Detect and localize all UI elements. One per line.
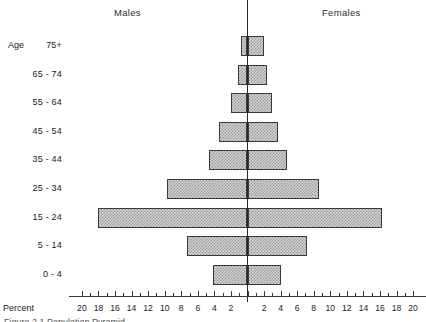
bar-male bbox=[219, 122, 248, 142]
age-group-label: 5 - 14 bbox=[38, 240, 62, 250]
bar-female bbox=[248, 265, 282, 285]
axis-minor-tick bbox=[190, 293, 191, 296]
percent-axis-title: Percent bbox=[3, 303, 34, 313]
axis-tick bbox=[165, 291, 166, 296]
age-group-label: 35 - 44 bbox=[33, 154, 62, 164]
bar-female bbox=[248, 150, 288, 170]
axis-tick bbox=[363, 291, 364, 296]
axis-minor-tick bbox=[123, 293, 124, 296]
bar-female bbox=[248, 36, 265, 56]
axis-minor-tick bbox=[140, 293, 141, 296]
bar-female bbox=[248, 236, 308, 256]
tick-label-left: 8 bbox=[179, 303, 184, 313]
tick-label-left: 2 bbox=[229, 303, 234, 313]
axis-tick bbox=[148, 291, 149, 296]
tick-label-right: 8 bbox=[311, 303, 316, 313]
bar-female bbox=[248, 122, 279, 142]
tick-label-right: 16 bbox=[375, 303, 385, 313]
tick-label-right: 18 bbox=[392, 303, 402, 313]
tick-label-right: 10 bbox=[326, 303, 336, 313]
females-header-label: Females bbox=[322, 7, 361, 18]
bar-male bbox=[238, 65, 248, 85]
age-group-label-column: 75+65 - 7455 - 6445 - 5435 - 4425 - 3415… bbox=[0, 0, 62, 300]
bar-male bbox=[213, 265, 248, 285]
age-group-label: 45 - 54 bbox=[33, 126, 62, 136]
axis-tick bbox=[98, 291, 99, 296]
age-group-label: 15 - 24 bbox=[33, 212, 62, 222]
tick-label-left: 18 bbox=[94, 303, 104, 313]
axis-minor-tick bbox=[388, 293, 389, 296]
tick-label-right: 12 bbox=[342, 303, 352, 313]
axis-minor-tick bbox=[223, 293, 224, 296]
axis-tick bbox=[248, 291, 249, 296]
axis-tick bbox=[82, 291, 83, 296]
axis-minor-tick bbox=[156, 293, 157, 296]
axis-tick bbox=[231, 291, 232, 296]
tick-label-left: 4 bbox=[212, 303, 217, 313]
bar-male bbox=[231, 93, 248, 113]
axis-minor-tick bbox=[90, 293, 91, 296]
bar-female bbox=[248, 208, 382, 228]
tick-label-left: 14 bbox=[127, 303, 137, 313]
axis-tick bbox=[347, 291, 348, 296]
age-group-label: 75+ bbox=[46, 40, 62, 50]
bar-female bbox=[248, 179, 319, 199]
axis-tick bbox=[115, 291, 116, 296]
bar-male bbox=[98, 208, 247, 228]
axis-minor-tick bbox=[322, 293, 323, 296]
axis-minor-tick bbox=[272, 293, 273, 296]
axis-tick bbox=[297, 291, 298, 296]
axis-tick bbox=[330, 291, 331, 296]
percent-axis-baseline bbox=[69, 296, 426, 297]
tick-label-left: 10 bbox=[160, 303, 170, 313]
age-group-label: 65 - 74 bbox=[33, 69, 62, 79]
tick-label-left: 20 bbox=[77, 303, 87, 313]
bar-male bbox=[167, 179, 247, 199]
axis-tick bbox=[314, 291, 315, 296]
axis-minor-tick bbox=[256, 293, 257, 296]
age-group-label: 25 - 34 bbox=[33, 183, 62, 193]
tick-label-left: 12 bbox=[143, 303, 153, 313]
axis-tick bbox=[397, 291, 398, 296]
axis-minor-tick bbox=[173, 293, 174, 296]
axis-tick bbox=[264, 291, 265, 296]
axis-tick bbox=[214, 291, 215, 296]
axis-tick bbox=[198, 291, 199, 296]
axis-tick bbox=[380, 291, 381, 296]
bar-female bbox=[248, 65, 268, 85]
axis-tick bbox=[413, 291, 414, 296]
tick-label-left: 6 bbox=[195, 303, 200, 313]
tick-label-right: 2 bbox=[262, 303, 267, 313]
tick-label-left: 16 bbox=[110, 303, 120, 313]
bar-male bbox=[209, 150, 247, 170]
bar-female bbox=[248, 93, 273, 113]
axis-minor-tick bbox=[355, 293, 356, 296]
tick-label-right: 20 bbox=[408, 303, 418, 313]
axis-minor-tick bbox=[289, 293, 290, 296]
tick-label-right: 4 bbox=[278, 303, 283, 313]
axis-tick bbox=[281, 291, 282, 296]
axis-minor-tick bbox=[107, 293, 108, 296]
figure-caption: Figure 2.1 Population Pyramid bbox=[4, 317, 125, 322]
age-group-label: 0 - 4 bbox=[43, 269, 62, 279]
axis-minor-tick bbox=[305, 293, 306, 296]
axis-tick bbox=[181, 291, 182, 296]
bar-male bbox=[187, 236, 247, 256]
axis-minor-tick bbox=[239, 293, 240, 296]
tick-label-right: 6 bbox=[295, 303, 300, 313]
axis-minor-tick bbox=[372, 293, 373, 296]
axis-minor-tick bbox=[206, 293, 207, 296]
axis-minor-tick bbox=[339, 293, 340, 296]
tick-label-right: 14 bbox=[359, 303, 369, 313]
age-group-label: 55 - 64 bbox=[33, 97, 62, 107]
axis-minor-tick bbox=[405, 293, 406, 296]
males-header-label: Males bbox=[114, 7, 141, 18]
axis-tick bbox=[132, 291, 133, 296]
bar-male bbox=[241, 36, 248, 56]
